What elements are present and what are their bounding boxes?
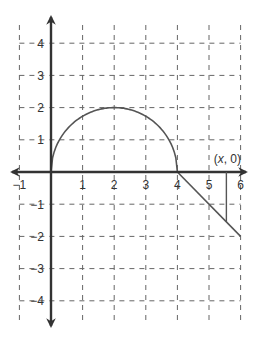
- annotation-rest: , 0): [224, 152, 241, 166]
- function-graph: −11234564321−1−2−3−4 (x, 0): [0, 0, 258, 345]
- y-tick-label: 2: [37, 101, 44, 115]
- x-tick-label: 2: [111, 178, 118, 192]
- x-tick-label: −1: [13, 178, 27, 192]
- x-tick-label: 6: [237, 178, 244, 192]
- annotation-label: (x, 0): [214, 152, 241, 166]
- y-tick-label: −4: [30, 294, 44, 308]
- y-tick-label: 4: [37, 37, 44, 51]
- x-tick-label: 5: [206, 178, 213, 192]
- x-tick-label: 1: [79, 178, 86, 192]
- x-tick-label: 4: [174, 178, 181, 192]
- axes: [12, 17, 246, 326]
- y-tick-label: 1: [37, 133, 44, 147]
- y-tick-label: −3: [30, 262, 44, 276]
- x-tick-label: 3: [142, 178, 149, 192]
- y-tick-label: 3: [37, 69, 44, 83]
- y-tick-label: −2: [30, 230, 44, 244]
- y-tick-label: −1: [30, 198, 44, 212]
- grid-lines: [19, 25, 240, 322]
